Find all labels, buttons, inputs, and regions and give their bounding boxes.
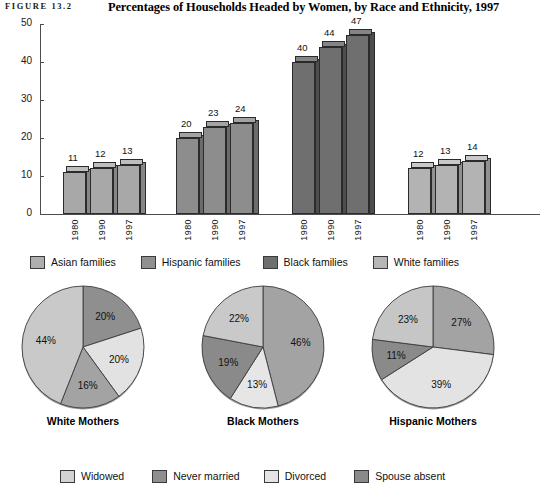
y-axis-line [40,24,41,214]
figure-title: Percentages of Households Headed by Wome… [108,0,499,15]
pie-legend-swatch [264,470,279,483]
bar-chart-legend: Asian familiesHispanic familiesBlack fam… [30,252,477,272]
bar-value-label: 44 [324,27,335,38]
bar-legend-item[interactable]: Black families [263,256,348,269]
bar-top-face [66,166,89,172]
bar [346,29,375,214]
bar-front-face [63,172,86,214]
bar-top-face [93,162,116,168]
x-tick-label: 1990 [326,219,336,241]
bar-side-face [485,158,491,214]
pie-chart-black-mothers: 46%13%19%22% Black Mothers [188,283,338,411]
bar-top-face [438,159,461,165]
bar [435,159,464,214]
x-tick-label: 1990 [97,219,107,241]
y-tick-mark [40,214,44,215]
bar-front-face [176,138,199,214]
y-tick-mark [40,62,44,63]
bar-top-face [120,159,143,165]
pie-chart-white-mothers: 20%20%16%44% White Mothers [8,283,158,411]
pie-legend-item[interactable]: Spouse absent [354,470,445,483]
bar-side-face [140,162,146,214]
figure-number: FIGURE 13.2 [5,1,73,11]
x-tick-label: 1990 [210,219,220,241]
y-tick-label: 30 [10,93,32,104]
bar [462,155,491,214]
bar-legend-label: White families [394,256,459,268]
bar-top-face [206,121,229,127]
bar-value-label: 47 [351,15,362,26]
y-tick-label: 0 [10,207,32,218]
x-tick-label: 1997 [469,219,479,241]
pie-chart-hispanic-mothers: 27%39%11%23% Hispanic Mothers [358,283,508,411]
bar [176,132,205,214]
bar-legend-item[interactable]: Hispanic families [141,256,241,269]
bar-front-face [408,168,431,214]
bar-top-face [295,56,318,62]
y-tick-label: 50 [10,17,32,28]
bar-legend-swatch [30,256,45,269]
bar-value-label: 13 [440,145,451,156]
pie-slice-label: 11% [386,350,405,361]
bar [408,162,437,214]
pie-slice-label: 22% [229,312,249,323]
bar-front-face [117,165,140,214]
bar-front-face [203,127,226,214]
pie-slice-label: 19% [218,357,238,368]
bar-legend-label: Asian families [51,256,116,268]
pie-slice-label: 13% [247,379,267,390]
bar-side-face [253,120,259,214]
x-tick-label: 1997 [237,219,247,241]
y-tick-label: 20 [10,131,32,142]
bar-top-face [179,132,202,138]
bar-value-label: 23 [208,107,219,118]
bar-legend-item[interactable]: White families [373,256,459,269]
bar-value-label: 40 [297,42,308,53]
y-tick-mark [40,176,44,177]
pie-svg-black-mothers [188,283,338,411]
bar-top-face [349,29,372,35]
bar [117,159,146,214]
pie-slice-label: 20% [109,353,129,364]
pie-slice-label: 20% [95,311,115,322]
y-tick-label: 40 [10,55,32,66]
pie-slice-label: 27% [451,316,471,327]
pie-legend-item[interactable]: Widowed [60,470,124,483]
pie-svg-white-mothers [8,283,158,411]
figure-header: FIGURE 13.2 Percentages of Households He… [0,0,556,16]
pie-legend-label: Widowed [81,470,124,482]
pie-svg-hispanic-mothers [358,283,508,411]
y-tick-mark [40,100,44,101]
pie-caption-white-mothers: White Mothers [8,415,158,427]
bar-top-face [233,117,256,123]
bar-front-face [346,35,369,214]
y-tick-mark [40,138,44,139]
bar-legend-label: Black families [284,256,348,268]
bar-legend-item[interactable]: Asian families [30,256,116,269]
bar-value-label: 24 [235,103,246,114]
bar-legend-label: Hispanic families [162,256,241,268]
pie-slice-label: 46% [291,337,311,348]
bar [292,56,321,214]
pie-slice-label: 23% [398,313,418,324]
pie-chart-group: 20%20%16%44% White Mothers 46%13%19%22% … [0,283,556,433]
pie-legend-label: Divorced [285,470,326,482]
x-tick-label: 1980 [415,219,425,241]
bar-front-face [435,165,458,214]
y-tick-mark [40,24,44,25]
bar-front-face [319,47,342,214]
pie-legend-label: Spouse absent [375,470,445,482]
bar-chart: 50403020100 111213202324404447121314 198… [0,18,556,246]
x-tick-label: 1997 [124,219,134,241]
pie-slice-label: 16% [78,379,98,390]
bar-value-label: 14 [467,141,478,152]
x-tick-label: 1980 [70,219,80,241]
pie-legend-item[interactable]: Never married [152,470,240,483]
x-tick-label: 1990 [442,219,452,241]
pie-caption-hispanic-mothers: Hispanic Mothers [358,415,508,427]
bar [63,166,92,214]
bar-value-label: 11 [68,152,78,163]
bar-top-face [411,162,434,168]
bar-side-face [369,32,375,214]
pie-legend-item[interactable]: Divorced [264,470,326,483]
